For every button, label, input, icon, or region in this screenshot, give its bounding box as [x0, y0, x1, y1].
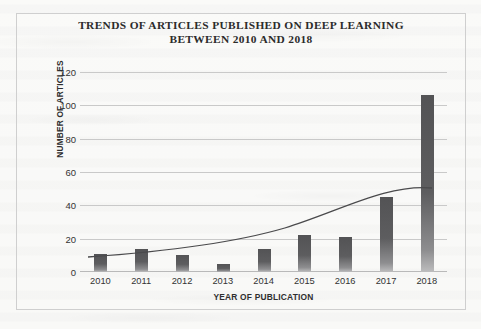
x-tick-label: 2015 [294, 276, 315, 286]
y-tick-label: 120 [60, 67, 76, 78]
x-axis-tick-labels: 2010 2011 2012 2013 2014 2015 2016 2017 … [80, 276, 447, 292]
y-tick-label: 20 [65, 233, 76, 244]
x-tick-label: 2012 [172, 276, 193, 286]
y-axis-tick-labels: 120 100 80 60 40 20 0 [36, 64, 76, 280]
chart-title-line-1: TRENDS OF ARTICLES PUBLISHED ON DEEP LEA… [16, 18, 466, 32]
x-tick-label: 2011 [131, 276, 151, 286]
trendline [80, 72, 447, 272]
chart-title-line-2: BETWEEN 2010 AND 2018 [16, 32, 466, 46]
x-tick-label: 2010 [90, 276, 111, 286]
x-tick-label: 2016 [335, 276, 356, 286]
x-tick-label: 2014 [253, 276, 274, 286]
plot-area [80, 72, 447, 272]
y-tick-label: 80 [65, 133, 76, 144]
y-tick-label: 0 [71, 267, 76, 278]
x-tick-label: 2018 [416, 276, 437, 286]
y-tick-label: 100 [60, 100, 76, 111]
x-tick-label: 2017 [376, 276, 397, 286]
y-tick-label: 40 [65, 200, 76, 211]
chart-title: TRENDS OF ARTICLES PUBLISHED ON DEEP LEA… [16, 18, 466, 46]
y-tick-label: 60 [65, 167, 76, 178]
x-axis-title: YEAR OF PUBLICATION [80, 292, 447, 302]
x-tick-label: 2013 [212, 276, 233, 286]
